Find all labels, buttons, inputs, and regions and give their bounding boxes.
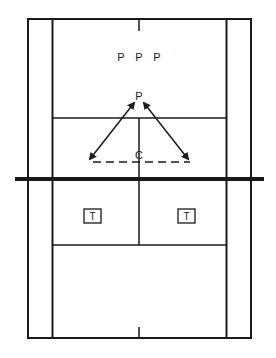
target-left: T: [84, 209, 101, 223]
target-label-left: T: [89, 211, 95, 222]
arrow-left: [90, 103, 134, 159]
active-player: P: [135, 90, 142, 102]
player-queue-2: P: [135, 51, 142, 63]
player-queue-3: P: [153, 51, 160, 63]
player-queue-1: P: [117, 51, 124, 63]
player-queue: P P P: [117, 51, 160, 63]
target-right: T: [178, 209, 195, 223]
badminton-court-diagram: P P P P C T T: [0, 0, 276, 358]
court-lines: [15, 19, 264, 338]
target-label-right: T: [183, 211, 189, 222]
coach-label: C: [135, 149, 143, 161]
arrow-right: [144, 103, 188, 159]
